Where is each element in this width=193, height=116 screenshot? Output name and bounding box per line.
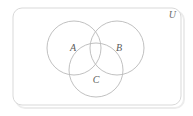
label-set-b: B bbox=[116, 42, 122, 53]
universe-frame bbox=[13, 8, 181, 105]
label-universal-set: U bbox=[169, 9, 177, 20]
venn-diagram-figure: A B C U bbox=[0, 0, 193, 116]
venn-diagram-canvas: A B C U bbox=[0, 0, 193, 116]
label-set-a: A bbox=[69, 42, 77, 53]
label-set-c: C bbox=[93, 74, 100, 85]
